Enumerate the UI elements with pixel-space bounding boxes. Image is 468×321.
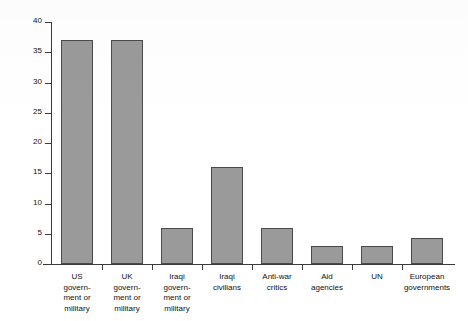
bar (311, 246, 343, 264)
x-axis-category-label-line: agencies (302, 283, 352, 294)
x-axis-category-label-line: ment or (152, 293, 202, 304)
bar (361, 246, 393, 264)
y-axis-tick-label-text: 0 (26, 259, 42, 267)
x-axis-tick (202, 265, 203, 270)
x-axis-tick (102, 265, 103, 270)
x-axis-category-label-line: govern- (102, 283, 152, 294)
x-axis-category-label-line: govern- (152, 283, 202, 294)
x-axis-category-label-line: military (102, 304, 152, 315)
bar (161, 228, 193, 264)
y-axis-tick-label: 40 (22, 17, 42, 27)
x-axis-category-label-line: European (402, 272, 452, 283)
y-axis-tick-label: 35 (22, 47, 42, 57)
y-axis-tick-label-text: 35 (26, 47, 42, 55)
y-axis-tick-label: 15 (22, 168, 42, 178)
x-axis-category-label: UN (352, 272, 402, 283)
x-axis-tick (252, 265, 253, 270)
x-axis-tick (352, 265, 353, 270)
x-axis-category-label-line: Aid (302, 272, 352, 283)
x-axis-category-label-line: Anti-war (252, 272, 302, 283)
bar-chart-figure: % of coverage citing this source 0510152… (0, 0, 468, 321)
bar (211, 167, 243, 264)
y-axis-tick-label-text: 10 (26, 199, 42, 207)
y-axis-tick-label-text: 40 (26, 17, 42, 25)
x-axis-category-label-line: military (152, 304, 202, 315)
x-axis-category-label-line: Iraqi (152, 272, 202, 283)
y-axis-tick (45, 22, 51, 23)
x-axis-category-label: Iraqigovern-ment ormilitary (152, 272, 202, 314)
x-axis-category-label: Aidagencies (302, 272, 352, 293)
x-axis-category-label: Anti-warcritics (252, 272, 302, 293)
x-axis-tick (402, 265, 403, 270)
y-axis-tick (45, 143, 51, 144)
y-axis-tick (45, 113, 51, 114)
y-axis-tick (45, 83, 51, 84)
bar (61, 40, 93, 264)
bar (261, 228, 293, 264)
x-axis-category-label-line: UN (352, 272, 402, 283)
x-axis-category-label: Iraqicivilians (202, 272, 252, 293)
y-axis-tick-label-text: 15 (26, 168, 42, 176)
x-axis-category-label-line: governments (402, 283, 452, 294)
y-axis-tick (45, 264, 51, 265)
y-axis-tick-label: 25 (22, 108, 42, 118)
y-axis-tick (45, 52, 51, 53)
plot-area (52, 22, 455, 264)
x-axis-category-label-line: ment or (52, 293, 102, 304)
y-axis-tick-label-text: 25 (26, 108, 42, 116)
y-axis-tick-label: 0 (22, 259, 42, 269)
x-axis-category-label-line: UK (102, 272, 152, 283)
x-axis-category-label-line: ment or (102, 293, 152, 304)
y-axis-tick-label: 10 (22, 199, 42, 209)
x-axis-category-label-line: critics (252, 283, 302, 294)
x-axis-category-label-line: military (52, 304, 102, 315)
x-axis-line (43, 264, 455, 265)
y-axis-tick-label-text: 5 (26, 229, 42, 237)
y-axis-tick (45, 173, 51, 174)
y-axis-tick-label: 30 (22, 78, 42, 88)
x-axis-category-label-line: govern- (52, 283, 102, 294)
x-axis-category-label-line: US (52, 272, 102, 283)
x-axis-category-label: USgovern-ment ormilitary (52, 272, 102, 314)
y-axis-tick (45, 234, 51, 235)
x-axis-category-label: Europeangovernments (402, 272, 452, 293)
x-axis-category-label-line: civilians (202, 283, 252, 294)
bar (111, 40, 143, 264)
y-axis-tick-label-text: 30 (26, 78, 42, 86)
y-axis-tick-label: 5 (22, 229, 42, 239)
x-axis-category-label-line: Iraqi (202, 272, 252, 283)
y-axis-tick-label: 20 (22, 138, 42, 148)
x-axis-tick (152, 265, 153, 270)
y-axis-tick (45, 204, 51, 205)
y-axis-title: % of coverage citing this source (0, 0, 24, 46)
y-axis-tick-label-text: 20 (26, 138, 42, 146)
x-axis-category-label: UKgovern-ment ormilitary (102, 272, 152, 314)
x-axis-tick (302, 265, 303, 270)
bar (411, 238, 443, 264)
